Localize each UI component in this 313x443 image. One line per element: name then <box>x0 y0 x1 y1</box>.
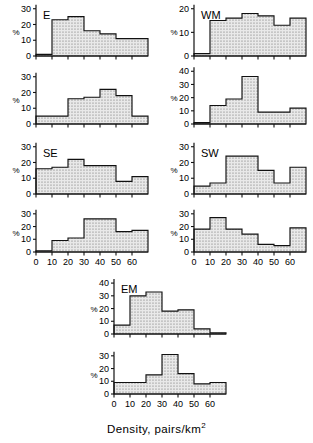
y-tick-label: 20 <box>179 158 189 168</box>
y-tick-label: 20 <box>21 158 31 168</box>
y-axis-label: % <box>170 94 177 103</box>
region-label: SE <box>43 147 58 159</box>
histogram-steps <box>36 219 148 252</box>
x-tick-label: 20 <box>63 257 73 267</box>
x-axis-caption-exponent: 2 <box>201 421 206 430</box>
y-axis-label: % <box>12 28 19 37</box>
y-tick-label: 20 <box>21 20 31 30</box>
y-tick-label: 30 <box>179 142 189 152</box>
y-tick-label: 40 <box>99 278 109 288</box>
y-tick-label: 0 <box>104 329 109 339</box>
histogram-steps <box>36 89 148 124</box>
y-axis-label: % <box>12 166 19 175</box>
histogram-panel-em-bottom: 0102030%0102030405060 <box>80 352 230 410</box>
y-tick-label: 30 <box>99 291 109 301</box>
y-tick-label: 30 <box>99 351 109 361</box>
x-tick-label: 20 <box>141 399 151 409</box>
y-tick-label: 0 <box>184 119 189 129</box>
y-axis-label: % <box>170 229 177 238</box>
histogram-panel-wm-bottom: 010203040% <box>160 66 310 130</box>
y-tick-label: 20 <box>179 93 189 103</box>
y-tick-label: 0 <box>26 119 31 129</box>
y-tick-label: 0 <box>26 189 31 199</box>
x-tick-label: 50 <box>189 399 199 409</box>
x-tick-label: 10 <box>205 257 215 267</box>
y-tick-label: 10 <box>21 35 31 45</box>
y-axis-label: % <box>170 28 177 37</box>
x-tick-label: 50 <box>269 257 279 267</box>
y-tick-label: 10 <box>21 103 31 113</box>
y-tick-label: 10 <box>99 376 109 386</box>
histogram-panel-wm-top: 01020%WM <box>160 4 310 62</box>
y-axis-label: % <box>90 371 97 380</box>
y-tick-label: 0 <box>184 189 189 199</box>
y-tick-label: 0 <box>26 247 31 257</box>
y-axis-label: % <box>12 229 19 238</box>
x-tick-label: 40 <box>95 257 105 267</box>
histogram-steps <box>114 292 226 334</box>
x-tick-label: 20 <box>221 257 231 267</box>
y-tick-label: 20 <box>21 88 31 98</box>
histogram-steps <box>194 77 306 124</box>
y-axis-label: % <box>12 96 19 105</box>
x-tick-label: 30 <box>157 399 167 409</box>
x-tick-label: 30 <box>79 257 89 267</box>
y-tick-label: 30 <box>21 72 31 82</box>
y-tick-label: 20 <box>99 364 109 374</box>
y-tick-label: 20 <box>21 222 31 232</box>
y-tick-label: 10 <box>179 28 189 38</box>
y-tick-label: 10 <box>179 106 189 116</box>
region-label: EM <box>121 283 138 295</box>
x-tick-label: 40 <box>173 399 183 409</box>
histogram-steps <box>194 156 306 194</box>
x-tick-label: 50 <box>111 257 121 267</box>
x-tick-label: 0 <box>33 257 38 267</box>
histogram-panel-se-top: 0102030%SE <box>2 142 152 200</box>
y-axis-label: % <box>90 305 97 314</box>
histogram-panel-e-bottom: 0102030% <box>2 72 152 130</box>
region-label: SW <box>201 147 219 159</box>
histogram-figure: 0102030%E01020%WM0102030%010203040%01020… <box>0 0 313 443</box>
histogram-panel-se-bottom: 0102030%0102030405060 <box>2 210 152 268</box>
x-tick-label: 0 <box>191 257 196 267</box>
y-tick-label: 40 <box>179 66 189 76</box>
y-tick-label: 30 <box>179 209 189 219</box>
histogram-steps <box>36 159 148 194</box>
x-tick-label: 10 <box>125 399 135 409</box>
histogram-panel-sw-top: 0102030%SW <box>160 142 310 200</box>
y-tick-label: 20 <box>179 4 189 14</box>
histogram-steps <box>114 355 226 394</box>
histogram-steps <box>36 17 148 56</box>
x-tick-label: 0 <box>111 399 116 409</box>
y-tick-label: 10 <box>179 234 189 244</box>
y-tick-label: 20 <box>99 304 109 314</box>
region-label: E <box>43 9 50 21</box>
histogram-panel-e-top: 0102030%E <box>2 4 152 62</box>
x-tick-label: 10 <box>47 257 57 267</box>
histogram-panel-em-top: 010203040%EM <box>80 278 230 340</box>
x-axis-caption: Density, pairs/km2 <box>0 421 313 435</box>
y-tick-label: 0 <box>184 247 189 257</box>
y-tick-label: 10 <box>179 173 189 183</box>
x-tick-label: 60 <box>285 257 295 267</box>
y-tick-label: 0 <box>26 51 31 61</box>
y-tick-label: 10 <box>21 173 31 183</box>
y-tick-label: 20 <box>179 222 189 232</box>
x-tick-label: 60 <box>127 257 137 267</box>
x-tick-label: 60 <box>205 399 215 409</box>
histogram-steps <box>194 218 306 252</box>
y-tick-label: 30 <box>21 4 31 14</box>
y-tick-label: 30 <box>21 142 31 152</box>
x-tick-label: 30 <box>237 257 247 267</box>
x-tick-label: 40 <box>253 257 263 267</box>
region-label: WM <box>201 9 221 21</box>
y-tick-label: 0 <box>104 389 109 399</box>
y-tick-label: 10 <box>21 234 31 244</box>
y-tick-label: 10 <box>99 316 109 326</box>
y-tick-label: 0 <box>184 51 189 61</box>
x-axis-caption-text: Density, pairs/km <box>107 423 201 435</box>
y-tick-label: 30 <box>179 80 189 90</box>
y-tick-label: 30 <box>21 209 31 219</box>
histogram-panel-sw-bottom: 0102030%0102030405060 <box>160 210 310 268</box>
y-axis-label: % <box>170 166 177 175</box>
